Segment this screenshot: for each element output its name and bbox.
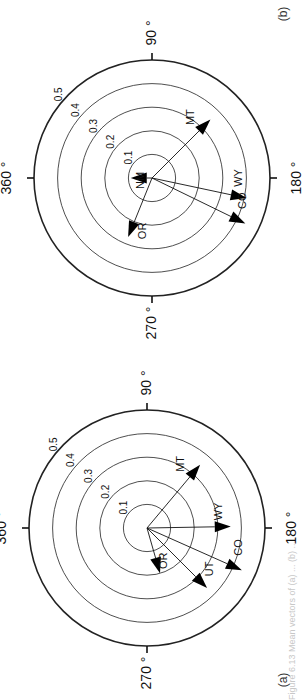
arrowhead-icon: [225, 559, 242, 571]
vector-or: OR: [147, 528, 169, 573]
angle-label: 270 °: [138, 657, 154, 690]
vector-shaft: [147, 477, 190, 528]
radial-tick-label: 0.1: [118, 500, 129, 514]
radial-tick-label: 0.3: [83, 469, 94, 483]
radial-tick-label: 0.2: [105, 134, 116, 148]
radial-tick-label: 0.4: [65, 453, 76, 467]
vector-mt: MT: [147, 456, 200, 528]
vector-shaft: [152, 131, 199, 178]
vector-label: UT: [203, 561, 215, 576]
angle-label: 270 °: [143, 307, 159, 340]
arrowhead-icon: [186, 465, 200, 481]
vector-label: NM: [134, 172, 146, 189]
vector-label: OR: [157, 553, 169, 570]
radial-tick-label: 0.5: [48, 437, 59, 451]
radial-tick-label: 0.5: [53, 87, 64, 101]
vector-shaft: [152, 178, 231, 217]
radial-tick-label: 0.2: [100, 484, 111, 498]
polar-chart-b: 0.10.20.30.40.5360 °90 °180 °270 °MTWYCO…: [0, 0, 305, 350]
angle-label: 360 °: [0, 162, 14, 195]
vector-label: OR: [136, 223, 148, 240]
vector-label: CO: [236, 192, 248, 209]
vector-label: WY: [212, 502, 224, 520]
radial-tick-label: 0.1: [123, 150, 134, 164]
angle-label: 90 °: [143, 20, 159, 45]
polar-plot-a: 0.10.20.30.40.5360 °90 °180 °270 °MTWYCO…: [0, 350, 305, 700]
vector-shaft: [147, 527, 215, 528]
arrowhead-icon: [229, 212, 246, 224]
angle-label: 90 °: [138, 370, 154, 395]
arrowhead-icon: [215, 521, 231, 532]
angle-label: 360 °: [0, 512, 9, 545]
radial-tick-label: 0.4: [70, 103, 81, 117]
vector-mt: MT: [152, 109, 210, 178]
figure-caption: Figure 6.13 Mean vectors of (a) ... (b) …: [287, 10, 297, 700]
vector-label: MT: [174, 456, 186, 472]
polar-chart-a: 0.10.20.30.40.5360 °90 °180 °270 °MTWYCO…: [0, 350, 305, 700]
vector-shaft: [152, 178, 231, 195]
vector-label: MT: [184, 109, 196, 125]
vector-label: WY: [232, 168, 244, 186]
vector-label: CO: [232, 539, 244, 556]
polar-plot-b: 0.10.20.30.40.5360 °90 °180 °270 °MTWYCO…: [0, 0, 305, 350]
radial-tick-label: 0.3: [88, 119, 99, 133]
